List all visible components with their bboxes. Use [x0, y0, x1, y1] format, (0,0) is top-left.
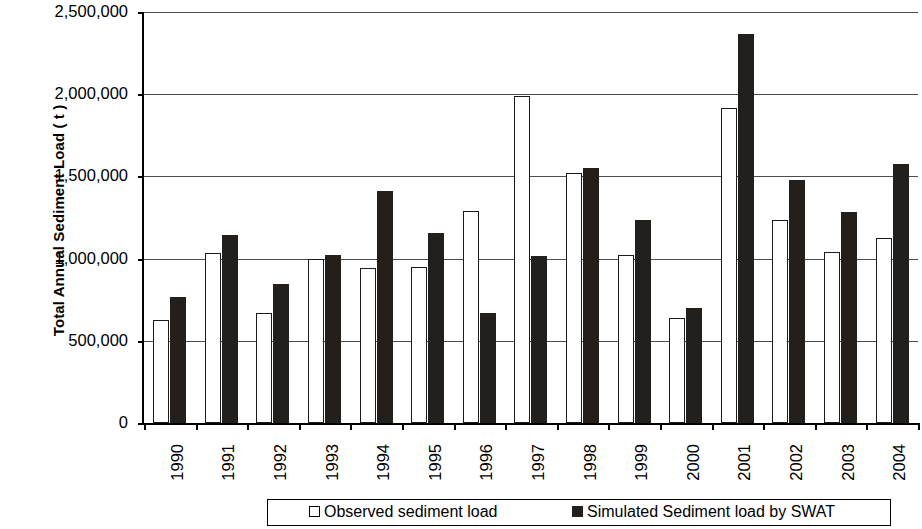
bar-observed: [256, 313, 272, 423]
bar-simulated: [273, 284, 289, 423]
bar-observed: [153, 320, 169, 423]
x-tick-label: 1993: [323, 444, 342, 481]
x-tick-mark: [144, 423, 146, 430]
legend-item-simulated: Simulated Sediment load by SWAT: [572, 503, 835, 520]
filled-square-marker-icon: [572, 506, 583, 517]
x-tick-label: 2002: [787, 444, 806, 481]
bar-observed: [205, 253, 221, 423]
x-tick-mark: [866, 423, 868, 430]
x-tick-mark: [918, 423, 920, 430]
x-tick-mark: [299, 423, 301, 430]
bar-simulated: [583, 168, 599, 423]
bar-observed: [411, 267, 427, 423]
bar-observed: [566, 173, 582, 423]
bar-group: [763, 12, 815, 423]
x-tick-label: 2000: [684, 444, 703, 481]
x-tick-mark: [402, 423, 404, 430]
bar-group: [557, 12, 609, 423]
sediment-load-bar-chart: Total Annual Sediment Load ( t ) 0500,00…: [0, 0, 922, 529]
x-tick-label: 1998: [581, 444, 600, 481]
y-tick-label: 2,500,000: [0, 2, 128, 21]
x-tick-mark: [815, 423, 817, 430]
x-tick-mark: [712, 423, 714, 430]
x-tick-label: 2001: [735, 444, 754, 481]
x-tick-label: 1990: [168, 444, 187, 481]
bar-simulated: [170, 297, 186, 423]
bar-observed: [824, 252, 840, 423]
bar-observed: [514, 96, 530, 423]
bar-simulated: [893, 164, 909, 423]
x-tick-mark: [196, 423, 198, 430]
bar-group: [608, 12, 660, 423]
y-tick-label: 0: [0, 413, 128, 432]
x-tick-mark: [557, 423, 559, 430]
bar-observed: [463, 211, 479, 423]
bar-group: [196, 12, 248, 423]
x-tick-mark: [608, 423, 610, 430]
chart-legend: Observed sediment load Simulated Sedimen…: [267, 499, 891, 526]
bar-observed: [308, 259, 324, 423]
x-tick-mark: [350, 423, 352, 430]
bar-observed: [669, 318, 685, 423]
x-tick-mark: [763, 423, 765, 430]
y-tick-label: 1,500,000: [0, 166, 128, 185]
bar-simulated: [222, 235, 238, 423]
bar-group: [815, 12, 867, 423]
bar-group: [505, 12, 557, 423]
x-tick-label: 2003: [839, 444, 858, 481]
x-tick-label: 2004: [890, 444, 909, 481]
legend-label-simulated: Simulated Sediment load by SWAT: [587, 503, 835, 520]
x-tick-label: 1994: [374, 444, 393, 481]
bar-group: [247, 12, 299, 423]
y-tick-label: 2,000,000: [0, 84, 128, 103]
bar-group: [402, 12, 454, 423]
bar-observed: [721, 108, 737, 423]
x-tick-mark: [247, 423, 249, 430]
bar-simulated: [325, 255, 341, 423]
x-tick-mark: [454, 423, 456, 430]
bar-simulated: [428, 233, 444, 423]
x-tick-mark: [505, 423, 507, 430]
x-tick-label: 1999: [632, 444, 651, 481]
bar-group: [144, 12, 196, 423]
open-square-marker-icon: [309, 506, 320, 517]
y-axis-title: Total Annual Sediment Load ( t ): [50, 71, 67, 371]
legend-item-observed: Observed sediment load: [309, 503, 497, 520]
bar-observed: [360, 268, 376, 423]
bar-observed: [772, 220, 788, 423]
bar-group: [866, 12, 918, 423]
x-tick-mark: [660, 423, 662, 430]
bar-simulated: [789, 180, 805, 423]
bar-group: [454, 12, 506, 423]
bar-simulated: [480, 313, 496, 423]
bar-group: [712, 12, 764, 423]
x-tick-label: 1997: [529, 444, 548, 481]
bar-simulated: [377, 191, 393, 423]
x-tick-label: 1996: [477, 444, 496, 481]
bar-simulated: [841, 212, 857, 423]
bars-layer: [144, 12, 918, 423]
bar-simulated: [635, 220, 651, 423]
bar-group: [660, 12, 712, 423]
x-tick-label: 1992: [271, 444, 290, 481]
legend-label-observed: Observed sediment load: [324, 503, 497, 520]
bar-observed: [618, 255, 634, 423]
bar-group: [350, 12, 402, 423]
bar-simulated: [686, 308, 702, 423]
bar-group: [299, 12, 351, 423]
bar-simulated: [738, 34, 754, 423]
plot-area: 0500,0001,000,0001,500,0002,000,0002,500…: [142, 12, 918, 425]
x-tick-label: 1995: [426, 444, 445, 481]
bar-observed: [876, 238, 892, 423]
y-tick-label: 500,000: [0, 331, 128, 350]
y-tick-label: 1,000,000: [0, 249, 128, 268]
x-tick-label: 1991: [219, 444, 238, 481]
bar-simulated: [531, 256, 547, 423]
